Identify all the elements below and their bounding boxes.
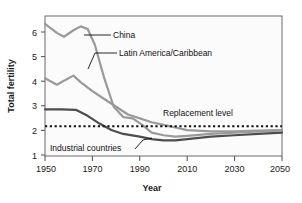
fertility-chart-figure: 6 5 4 3 2 1 1950 1970 1990 2010 2030 205… (0, 0, 302, 203)
y-tick-label-4: 4 (32, 77, 37, 87)
x-tick-label-2050: 2050 (270, 164, 290, 174)
series-label-industrial-countries: Industrial countries (50, 143, 121, 153)
y-tick-label-1: 1 (32, 151, 37, 161)
x-tick-label-1950: 1950 (36, 164, 56, 174)
series-label-latin-america: Latin America/Caribbean (119, 48, 212, 58)
y-axis-ticks (41, 32, 45, 155)
x-axis-ticks (45, 156, 282, 161)
y-tick-label-3: 3 (32, 101, 37, 111)
y-axis-title: Total fertility (6, 59, 16, 112)
x-tick-label-2030: 2030 (225, 164, 245, 174)
y-tick-label-6: 6 (32, 28, 37, 38)
series-label-replacement-level: Replacement level (163, 108, 233, 118)
x-axis-title: Year (142, 183, 162, 193)
x-tick-label-1970: 1970 (82, 164, 102, 174)
x-tick-label-1990: 1990 (130, 164, 150, 174)
y-tick-label-2: 2 (32, 126, 37, 136)
y-tick-label-5: 5 (32, 52, 37, 62)
chart-canvas: 6 5 4 3 2 1 1950 1970 1990 2010 2030 205… (0, 0, 302, 203)
x-tick-label-2010: 2010 (177, 164, 197, 174)
series-label-china: China (113, 30, 135, 40)
